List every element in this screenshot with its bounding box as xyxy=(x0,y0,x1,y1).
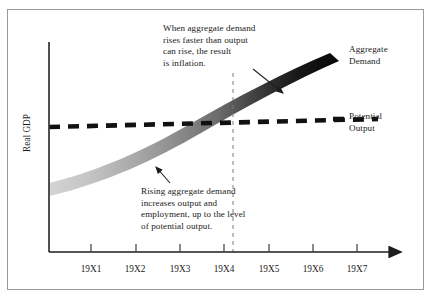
x-tick-label-19x4: 19X4 xyxy=(202,264,246,274)
x-tick-label-19x5: 19X5 xyxy=(247,264,291,274)
legend-label-potential-output: Potential Output xyxy=(349,111,382,134)
x-tick-label-19x3: 19X3 xyxy=(158,264,202,274)
y-axis-label: Real GDP xyxy=(22,103,32,163)
output-growth-note-arrow xyxy=(156,167,170,183)
x-axis-ticks xyxy=(91,244,357,252)
x-tick-label-19x6: 19X6 xyxy=(291,264,335,274)
annotation-inflation: When aggregate demand rises faster than … xyxy=(163,23,256,69)
legend-label-aggregate-demand: Aggregate Demand xyxy=(349,44,388,67)
x-tick-label-19x2: 19X2 xyxy=(113,264,157,274)
annotation-output-growth: Rising aggregate demand increases output… xyxy=(141,186,245,232)
figure-container: When aggregate demand rises faster than … xyxy=(0,0,432,304)
x-tick-label-19x1: 19X1 xyxy=(69,264,113,274)
x-tick-label-19x7: 19X7 xyxy=(335,264,379,274)
